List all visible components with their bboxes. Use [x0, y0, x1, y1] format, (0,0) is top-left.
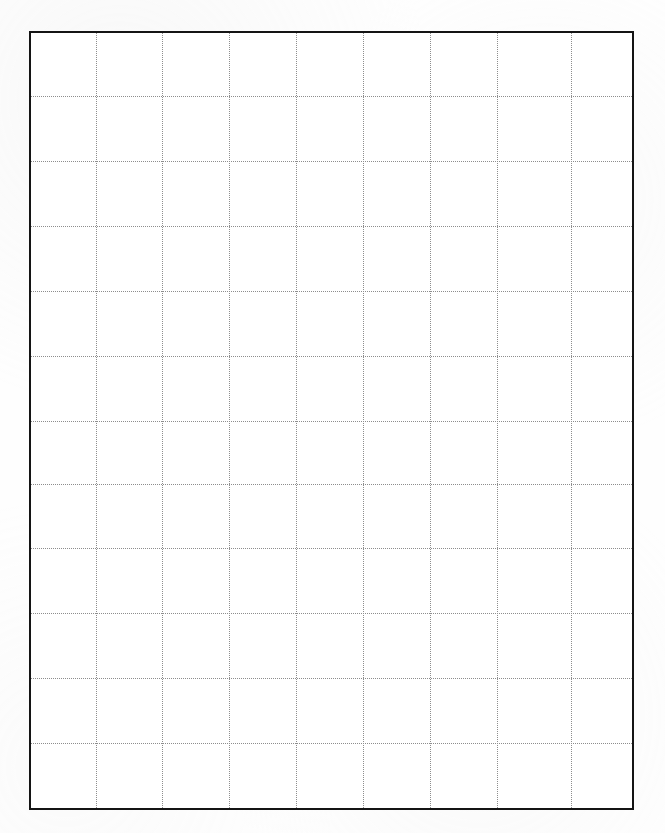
grid-line-horizontal-9: [31, 613, 632, 614]
grid-line-horizontal-5: [31, 356, 632, 357]
grid-line-horizontal-2: [31, 161, 632, 162]
grid-line-horizontal-4: [31, 291, 632, 292]
grid-line-horizontal-3: [31, 226, 632, 227]
grid-line-horizontal-7: [31, 484, 632, 485]
grid-border-frame: [29, 31, 634, 810]
grid-line-horizontal-11: [31, 743, 632, 744]
grid-lines-container: [31, 33, 632, 808]
page-surface: [0, 0, 665, 833]
grid-line-horizontal-1: [31, 96, 632, 97]
grid-line-horizontal-10: [31, 678, 632, 679]
grid-line-horizontal-6: [31, 421, 632, 422]
grid-line-horizontal-8: [31, 548, 632, 549]
